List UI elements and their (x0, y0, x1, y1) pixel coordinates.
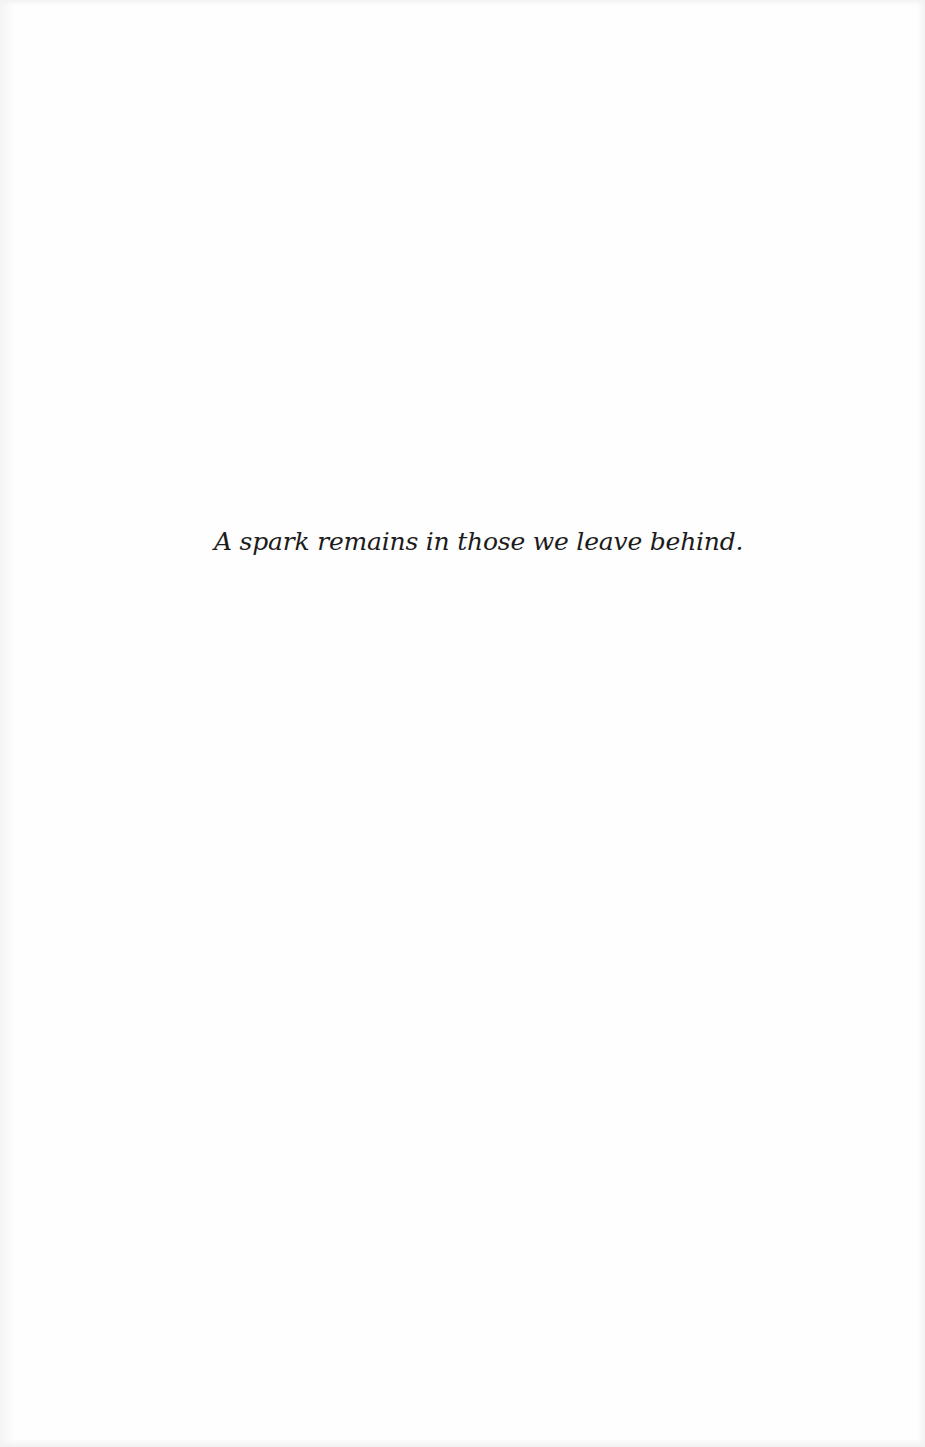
scan-edge-bottom (0, 1439, 925, 1447)
book-page: A spark remains in those we leave behind… (0, 0, 925, 1447)
scan-edge-right (917, 0, 925, 1447)
scan-edge-left (0, 0, 14, 1447)
scan-edge-top (0, 0, 925, 6)
epigraph-text: A spark remains in those we leave behind… (214, 524, 684, 560)
